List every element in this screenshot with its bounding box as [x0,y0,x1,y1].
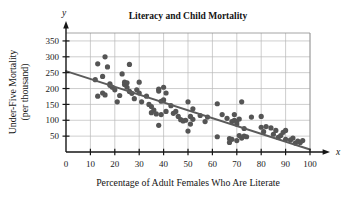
data-point [132,96,137,101]
data-point [249,114,254,119]
data-point [163,109,168,114]
data-point [215,101,220,106]
data-point [183,118,188,123]
x-axis-caption: Percentage of Adult Females Who Are Lite… [96,177,280,188]
data-point [161,85,166,90]
data-point [273,128,278,133]
data-point [224,116,229,121]
y-tick-label: 200 [46,84,60,94]
data-point [229,137,234,142]
data-point [102,92,107,97]
chart-canvas: 50100150200250300350 0102030405060708090… [0,0,345,201]
x-tick-label: 50 [184,159,194,169]
y-axis-name-label: y [61,8,67,18]
data-point [185,128,190,133]
data-point [173,109,178,114]
data-point [115,99,120,104]
data-point [137,80,142,85]
data-point [232,112,237,117]
data-point [156,123,161,128]
data-point [234,138,239,143]
data-point [159,112,164,117]
data-point [185,99,190,104]
data-point [263,124,268,129]
data-point [124,80,129,85]
data-point [117,93,122,98]
x-tick-label: 30 [135,159,145,169]
y-axis-caption-line2: (per thousand) [19,64,31,121]
x-tick-label: 90 [281,159,291,169]
data-point [290,135,295,140]
y-tick-label: 300 [46,52,60,62]
data-point [102,54,107,59]
data-point [105,64,110,69]
scatter-plot-figure: 50100150200250300350 0102030405060708090… [0,0,345,201]
data-point [163,90,168,95]
data-point [283,128,288,133]
data-point [154,111,159,116]
data-point [300,138,305,143]
data-point [156,88,161,93]
data-point [239,99,244,104]
x-tick-label: 20 [110,159,120,169]
x-tick-label: 60 [208,159,218,169]
data-point [244,134,249,139]
x-axis-arrow [323,149,330,155]
x-tick-label: 40 [159,159,169,169]
x-tick-label: 0 [64,159,69,169]
data-point [139,99,144,104]
data-point [100,74,105,79]
data-point [190,117,195,122]
data-point [120,71,125,76]
x-tick-label: 100 [303,159,317,169]
y-tick-label: 350 [46,36,60,46]
x-axis-name-label: x [335,147,341,157]
data-point [259,125,264,130]
chart-title: Literacy and Child Mortality [129,11,248,21]
data-point [95,94,100,99]
data-point [188,121,193,126]
data-point [95,61,100,66]
y-tick-label: 150 [46,100,60,110]
y-tick-label: 100 [46,115,60,125]
x-tick-labels: 0102030405060708090100 [64,159,318,169]
data-point [237,116,242,121]
x-tick-label: 10 [86,159,96,169]
x-tick-label: 70 [232,159,242,169]
x-tick-label: 80 [257,159,267,169]
data-point [127,62,132,67]
y-tick-label: 50 [50,131,60,141]
data-point [215,134,220,139]
y-axis-caption-line1: Under-Five Mortality [7,50,18,135]
data-point [259,114,264,119]
data-point [268,125,273,130]
y-tick-labels: 50100150200250300350 [46,36,60,141]
data-point [202,119,207,124]
y-tick-label: 250 [46,68,60,78]
data-points-layer [93,54,306,146]
data-point [220,112,225,117]
y-axis-arrow [63,21,69,28]
